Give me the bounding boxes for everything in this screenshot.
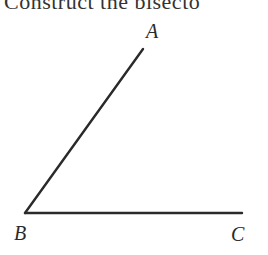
label-b: B (14, 222, 26, 244)
label-a: A (144, 20, 159, 42)
angle-diagram: A B C (0, 0, 268, 255)
label-c: C (231, 223, 245, 245)
ray-ba (25, 49, 143, 213)
